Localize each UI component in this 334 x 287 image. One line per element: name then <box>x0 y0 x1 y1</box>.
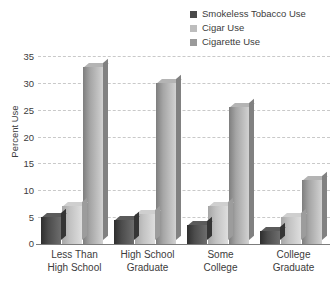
bar-side-face <box>249 99 254 240</box>
y-axis-tick-label: 35 <box>23 51 34 62</box>
legend-item-label: Smokeless Tobacco Use <box>202 9 306 19</box>
bar-front-face <box>260 231 280 244</box>
y-axis-tick-label: 5 <box>29 212 34 223</box>
x-axis-category-line: Less Than <box>38 248 111 261</box>
bar <box>114 220 134 244</box>
legend-item-smokeless-tobacco-use: Smokeless Tobacco Use <box>190 8 306 20</box>
x-axis-category-line: Graduate <box>257 261 330 274</box>
x-axis-category-line: College <box>184 261 257 274</box>
x-axis-category-label: Less ThanHigh School <box>38 248 111 274</box>
bar-front-face <box>114 220 134 244</box>
legend-item-cigar-use: Cigar Use <box>190 22 306 34</box>
y-axis-tick-label: 20 <box>23 131 34 142</box>
chart-legend: Smokeless Tobacco Use Cigar Use Cigarett… <box>190 8 306 50</box>
x-axis-labels: Less ThanHigh SchoolHigh SchoolGraduateS… <box>38 248 330 284</box>
bar-side-face <box>82 198 87 240</box>
plot-area: 05101520253035 <box>38 56 330 244</box>
bar <box>260 231 280 244</box>
bar-side-face <box>103 59 108 240</box>
bar-side-face <box>322 171 327 240</box>
y-axis-title: Percent Use <box>9 92 20 172</box>
legend-swatch-icon <box>190 39 197 46</box>
bar-group <box>260 56 328 244</box>
x-axis-category-label: SomeCollege <box>184 248 257 274</box>
bar-group <box>41 56 109 244</box>
bar-front-face <box>41 217 61 244</box>
y-axis-tick-label: 10 <box>23 185 34 196</box>
bar-side-face <box>176 75 181 240</box>
bar-side-face <box>134 212 139 240</box>
bar <box>41 217 61 244</box>
y-axis-tick-label: 15 <box>23 158 34 169</box>
legend-swatch-icon <box>190 11 197 18</box>
x-axis-category-line: Graduate <box>111 261 184 274</box>
y-axis-tick-label: 0 <box>29 238 34 249</box>
x-axis-line <box>36 244 330 245</box>
bar-front-face <box>187 225 207 244</box>
y-axis-tick-label: 25 <box>23 104 34 115</box>
bar-side-face <box>301 209 306 240</box>
x-axis-category-label: High SchoolGraduate <box>111 248 184 274</box>
x-axis-category-line: High School <box>111 248 184 261</box>
bar-group <box>114 56 182 244</box>
x-axis-category-label: CollegeGraduate <box>257 248 330 274</box>
bar-side-face <box>207 217 212 240</box>
legend-item-cigarette-use: Cigarette Use <box>190 36 306 48</box>
y-axis-tick-label: 30 <box>23 77 34 88</box>
legend-swatch-icon <box>190 25 197 32</box>
legend-item-label: Cigarette Use <box>202 37 260 47</box>
x-axis-category-line: Some <box>184 248 257 261</box>
bar-side-face <box>155 206 160 240</box>
x-axis-category-line: College <box>257 248 330 261</box>
bar-side-face <box>61 209 66 240</box>
bar-group <box>187 56 255 244</box>
bar-chart: Smokeless Tobacco Use Cigar Use Cigarett… <box>0 0 334 287</box>
x-axis-category-line: High School <box>38 261 111 274</box>
bar-side-face <box>228 198 233 240</box>
legend-item-label: Cigar Use <box>202 23 244 33</box>
bar <box>187 225 207 244</box>
